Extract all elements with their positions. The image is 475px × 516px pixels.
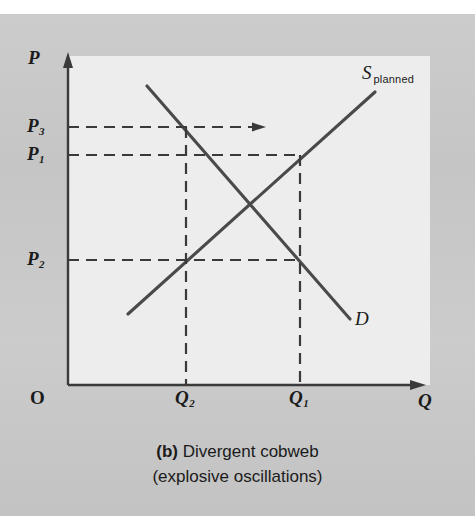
demand-curve: [147, 86, 350, 319]
supply-curve: [128, 92, 375, 314]
y-axis: [63, 52, 73, 385]
quantity-tick-q1: Q1: [289, 387, 308, 409]
caption-line-1: (b) Divergent cobweb: [0, 439, 475, 464]
price-tick-p2-sub: 2: [39, 258, 45, 270]
caption-title: Divergent cobweb: [183, 442, 319, 461]
price-tick-p3-sub: 3: [39, 125, 45, 137]
price-tick-p1-sub: 1: [39, 153, 45, 165]
quantity-tick-q2: Q2: [175, 387, 194, 409]
origin-label: O: [30, 387, 45, 409]
quantity-tick-q2-base: Q: [175, 387, 189, 408]
y-axis-label: P: [28, 47, 40, 69]
supply-curve-label: Splanned: [362, 62, 412, 84]
price-tick-p3: P3: [27, 115, 44, 137]
quantity-tick-q1-sub: 1: [303, 397, 309, 409]
p3-guide-line: [68, 123, 266, 132]
price-tick-p3-base: P: [27, 115, 39, 136]
x-axis-label: Q: [418, 390, 432, 412]
demand-curve-label: D: [355, 308, 369, 330]
caption-line-2: (explosive oscillations): [0, 464, 475, 489]
supply-curve-label-sub: planned: [374, 73, 415, 85]
supply-curve-label-base: S: [362, 62, 372, 83]
price-tick-p1-base: P: [27, 143, 39, 164]
caption-tag: (b): [156, 442, 178, 461]
quantity-tick-q2-sub: 2: [189, 397, 195, 409]
price-tick-p2: P2: [27, 248, 44, 270]
figure-caption: (b) Divergent cobweb (explosive oscillat…: [0, 439, 475, 489]
price-tick-p2-base: P: [27, 248, 39, 269]
figure-panel: P Q O P3 P1 P2 Q2 Q1 Splanned D (b): [0, 14, 475, 516]
x-axis: [68, 380, 426, 390]
price-tick-p1: P1: [27, 143, 44, 165]
figure-page: P Q O P3 P1 P2 Q2 Q1 Splanned D (b): [0, 0, 475, 516]
quantity-tick-q1-base: Q: [289, 387, 303, 408]
